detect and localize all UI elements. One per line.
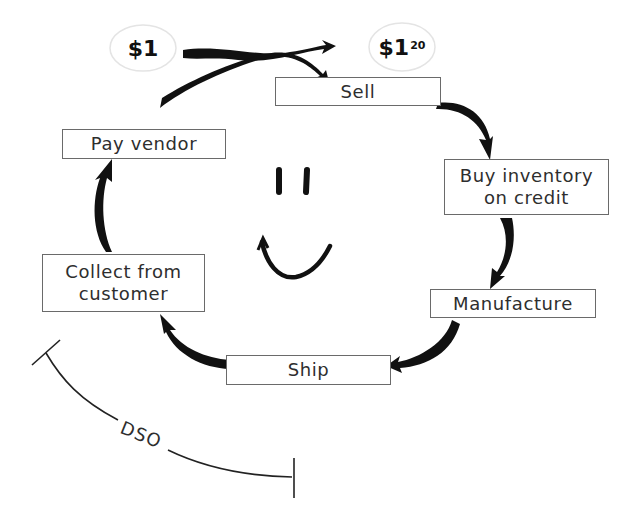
step-buy-label-line2: on credit	[484, 187, 569, 209]
step-buy-label-line1: Buy inventory	[460, 165, 594, 187]
step-collect-from-customer: Collect from customer	[42, 254, 205, 312]
arrow-manufacture-to-ship-icon	[386, 320, 460, 373]
step-sell-label: Sell	[341, 81, 376, 103]
step-manufacture: Manufacture	[430, 289, 596, 318]
arrow-sell-to-buy-icon	[436, 103, 493, 160]
cash-cycle-diagram: $1 $120 Sell Buy inventory on credit Man…	[0, 0, 634, 530]
step-pay-label: Pay vendor	[91, 133, 197, 155]
start-amount-label: $1	[110, 28, 176, 68]
end-amount-label: $120	[369, 27, 435, 67]
step-manufacture-label: Manufacture	[453, 293, 573, 315]
step-collect-label-line2: customer	[79, 283, 169, 305]
arrow-buy-to-manufacture-icon	[490, 218, 514, 289]
step-sell: Sell	[275, 77, 441, 106]
end-amount-value: $1	[379, 35, 410, 60]
step-pay-vendor: Pay vendor	[62, 129, 226, 159]
smiley-face-icon	[258, 170, 330, 277]
step-collect-label-line1: Collect from	[65, 261, 181, 283]
step-ship: Ship	[226, 355, 391, 385]
start-amount-value: $1	[128, 36, 159, 61]
end-amount-cents: 20	[410, 39, 425, 52]
arrow-collect-to-pay-icon	[95, 159, 112, 252]
step-buy-inventory: Buy inventory on credit	[444, 159, 609, 215]
step-ship-label: Ship	[288, 359, 330, 381]
arrow-ship-to-collect-icon	[160, 314, 230, 369]
